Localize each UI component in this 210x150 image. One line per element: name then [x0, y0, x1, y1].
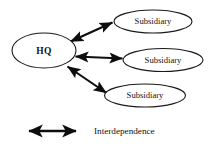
diagram-canvas: HQ Subsidiary Subsidiary Subsidiary Inte… [0, 0, 210, 150]
node-hq[interactable]: HQ [12, 33, 76, 68]
diagram-svg: HQ Subsidiary Subsidiary Subsidiary Inte… [0, 0, 210, 150]
node-subsidiary-2[interactable]: Subsidiary [123, 49, 203, 72]
node-subsidiary-1[interactable]: Subsidiary [114, 10, 192, 33]
node-subsidiary-1-label: Subsidiary [135, 16, 172, 26]
link-hq-subsidiary-3 [68, 67, 107, 94]
link-hq-subsidiary-2 [76, 57, 123, 59]
node-subsidiary-3-label: Subsidiary [127, 90, 164, 100]
node-subsidiary-3[interactable]: Subsidiary [105, 84, 186, 107]
legend: Interdependence [29, 126, 155, 136]
node-subsidiary-2-label: Subsidiary [145, 55, 182, 65]
legend-label: Interdependence [94, 126, 155, 136]
link-hq-subsidiary-1 [71, 23, 113, 42]
node-hq-label: HQ [36, 46, 51, 56]
